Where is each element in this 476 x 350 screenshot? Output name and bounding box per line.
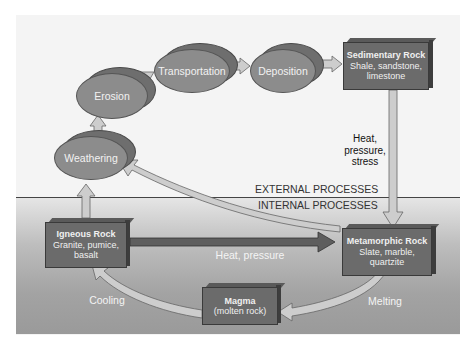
igneous-examples-2: basalt xyxy=(46,250,126,261)
arrow-igneous-to-weathering xyxy=(77,184,95,218)
label-line-heat: Heat, xyxy=(343,133,387,145)
metamorphic-examples-2: quartzite xyxy=(343,257,431,268)
transportation-label: Transportation xyxy=(154,49,230,93)
deposition-label: Deposition xyxy=(250,49,316,93)
label-heat-pressure-stress: Heat, pressure, stress xyxy=(343,133,387,168)
erosion-label: Erosion xyxy=(76,73,148,119)
magma-title: Magma xyxy=(203,296,277,307)
sedimentary-examples-2: limestone xyxy=(344,71,428,82)
weathering-label: Weathering xyxy=(54,136,128,180)
arrow-metamorphic-to-weathering xyxy=(118,160,340,232)
sedimentary-examples-1: Shale, sandstone, xyxy=(344,61,428,72)
arrow-deposition-to-sedimentary xyxy=(322,56,342,72)
magma-examples-1: (molten rock) xyxy=(203,306,277,317)
igneous-examples-1: Granite, pumice, xyxy=(46,240,126,251)
label-cooling: Cooling xyxy=(82,295,132,307)
label-melting: Melting xyxy=(360,296,410,308)
label-line-stress: stress xyxy=(343,156,387,168)
label-heat-pressure: Heat, pressure xyxy=(200,250,300,262)
metamorphic-title: Metamorphic Rock xyxy=(343,236,431,247)
arrow-magma-to-igneous xyxy=(92,265,202,318)
sedimentary-title: Sedimentary Rock xyxy=(344,50,428,61)
metamorphic-examples-1: Slate, marble, xyxy=(343,247,431,258)
label-line-pressure: pressure, xyxy=(343,145,387,157)
igneous-title: Igneous Rock xyxy=(46,229,126,240)
